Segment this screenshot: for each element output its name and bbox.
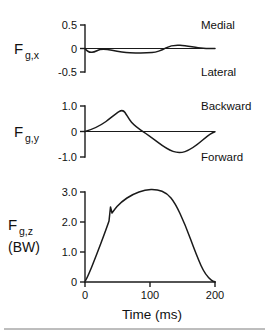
- fgz-ticklabel-0: 3.0: [62, 186, 77, 198]
- force-plot-svg: 0.5 0 -0.5 F g,x Medial Lateral 1.0 0 -1…: [0, 0, 269, 333]
- fgz-xticklabel-2: 200: [206, 289, 224, 301]
- fgz-xticklabel-0: 0: [82, 289, 88, 301]
- fgy-ticklabel-0: 1.0: [62, 100, 77, 112]
- panel-fgy: 1.0 0 -1.0 F g,y Backward Forward: [14, 100, 252, 163]
- fgz-ylabel-unit: (BW): [8, 239, 40, 255]
- fgy-annotation-backward: Backward: [201, 100, 252, 112]
- fgx-curve: [85, 45, 215, 53]
- fgz-ticklabel-3: 0: [71, 276, 77, 288]
- x-axis-title: Time (ms): [122, 307, 182, 322]
- fgx-annotation-lateral: Lateral: [201, 66, 236, 78]
- fgz-ticklabel-1: 2.0: [62, 216, 77, 228]
- fgx-ylabel-main: F: [14, 40, 23, 57]
- fgy-ylabel-sub: g,y: [25, 132, 40, 144]
- fgx-ticklabel-1: 0: [71, 43, 77, 55]
- fgy-annotation-forward: Forward: [201, 151, 243, 163]
- fgz-ticklabel-2: 1.0: [62, 246, 77, 258]
- force-figure: 0.5 0 -0.5 F g,x Medial Lateral 1.0 0 -1…: [0, 0, 269, 333]
- fgy-ticklabel-2: -1.0: [58, 151, 77, 163]
- panel-fgx: 0.5 0 -0.5 F g,x Medial Lateral: [14, 19, 236, 78]
- fgx-ticklabel-0: 0.5: [62, 19, 77, 31]
- fgx-ylabel-sub: g,x: [25, 49, 40, 61]
- fgz-curve: [86, 190, 216, 282]
- fgx-annotation-medial: Medial: [201, 19, 235, 31]
- panel-fgz: 3.0 2.0 1.0 0 0 100 200 F g,z (BW) Time …: [8, 186, 224, 322]
- fgz-ylabel-sub: g,z: [19, 225, 33, 237]
- fgx-ticklabel-2: -0.5: [58, 66, 77, 78]
- fgz-ylabel-main: F: [8, 216, 17, 233]
- fgy-ylabel-main: F: [14, 123, 23, 140]
- fgy-ticklabel-1: 0: [71, 126, 77, 138]
- fgz-xticklabel-1: 100: [141, 289, 159, 301]
